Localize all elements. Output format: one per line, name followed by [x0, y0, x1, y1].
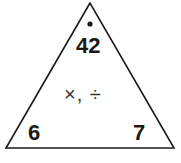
bottom-left-number: 6 — [28, 122, 40, 144]
operations-label: ×, ÷ — [64, 84, 102, 104]
bottom-right-number: 7 — [133, 122, 145, 144]
dot-marker — [87, 21, 92, 26]
top-number: 42 — [76, 35, 100, 57]
